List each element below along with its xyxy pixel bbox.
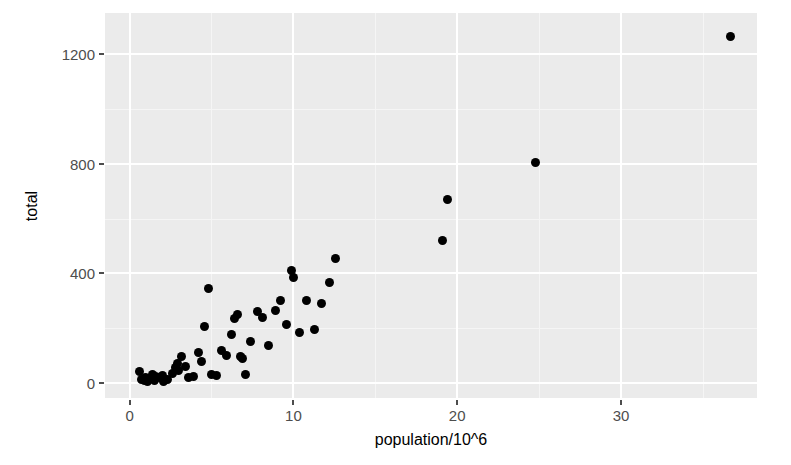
x-tick-mark [620, 400, 622, 405]
data-point [438, 236, 447, 245]
gridline-x-major [456, 13, 458, 398]
x-tick-label: 30 [613, 407, 630, 424]
gridline-y-minor [105, 109, 757, 110]
gridline-y-major [105, 163, 757, 165]
data-point [233, 310, 242, 319]
gridline-x-major [292, 13, 294, 398]
data-point [189, 372, 198, 381]
gridline-x-minor [539, 13, 540, 398]
y-tick-label: 400 [70, 265, 95, 282]
data-point [276, 296, 285, 305]
data-point [204, 284, 213, 293]
gridline-x-major [129, 13, 131, 398]
data-point [200, 322, 209, 331]
scatter-plot: 040080012000102030 population/10^6 total [0, 0, 791, 465]
data-point [443, 195, 452, 204]
gridline-x-minor [211, 13, 212, 398]
gridline-y-minor [105, 219, 757, 220]
gridline-x-minor [703, 13, 704, 398]
gridline-y-major [105, 53, 757, 55]
y-axis-title: total [23, 190, 41, 220]
data-point [238, 354, 247, 363]
data-point [197, 357, 206, 366]
x-tick-label: 20 [449, 407, 466, 424]
data-point [726, 32, 735, 41]
data-point [325, 278, 334, 287]
data-point [271, 306, 280, 315]
gridline-y-major [105, 272, 757, 274]
data-point [331, 254, 340, 263]
x-tick-label: 0 [125, 407, 133, 424]
x-tick-mark [292, 400, 294, 405]
gridline-x-minor [375, 13, 376, 398]
y-tick-mark [99, 382, 104, 384]
x-tick-label: 10 [285, 407, 302, 424]
y-tick-label: 800 [70, 155, 95, 172]
y-tick-label: 1200 [62, 46, 95, 63]
data-point [302, 296, 311, 305]
y-tick-label: 0 [87, 374, 95, 391]
data-point [181, 362, 190, 371]
data-point [222, 351, 231, 360]
data-point [295, 328, 304, 337]
x-tick-mark [456, 400, 458, 405]
data-point [246, 337, 255, 346]
data-point [264, 341, 273, 350]
y-tick-mark [99, 163, 104, 165]
data-point [310, 325, 319, 334]
data-point [282, 320, 291, 329]
data-point [227, 330, 236, 339]
data-point [212, 371, 221, 380]
gridline-x-major [620, 13, 622, 398]
data-point [177, 352, 186, 361]
data-point [289, 273, 298, 282]
plot-panel [105, 13, 757, 398]
data-point [194, 348, 203, 357]
data-point [317, 299, 326, 308]
data-point [241, 370, 250, 379]
x-tick-mark [129, 400, 131, 405]
x-axis-title: population/10^6 [375, 431, 488, 449]
y-tick-mark [99, 53, 104, 55]
y-tick-mark [99, 272, 104, 274]
data-point [258, 313, 267, 322]
gridline-y-major [105, 382, 757, 384]
